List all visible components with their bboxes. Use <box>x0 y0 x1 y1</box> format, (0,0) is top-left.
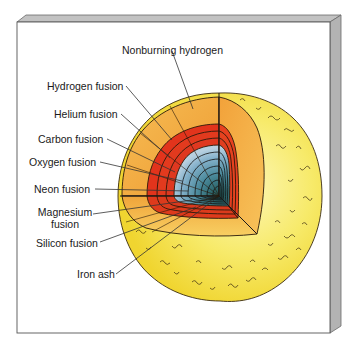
label-magnesium-line-1: Magnesium <box>36 206 94 218</box>
label-magnesium-fusion: Magnesium fusion <box>36 206 94 230</box>
label-silicon-fusion: Silicon fusion <box>36 237 98 249</box>
label-neon-fusion: Neon fusion <box>34 183 90 195</box>
label-oxygen-fusion: Oxygen fusion <box>29 156 96 168</box>
label-carbon-fusion: Carbon fusion <box>38 133 103 145</box>
diagram-stage: Nonburning hydrogen Hydrogen fusion Heli… <box>0 0 355 349</box>
label-magnesium-line-2: fusion <box>36 218 94 230</box>
label-nonburning-hydrogen: Nonburning hydrogen <box>122 44 223 56</box>
label-iron-ash: Iron ash <box>77 268 115 280</box>
frame-top-bevel <box>17 15 341 22</box>
frame-right-bevel <box>330 15 341 333</box>
label-helium-fusion: Helium fusion <box>54 108 118 120</box>
label-hydrogen-fusion: Hydrogen fusion <box>47 80 123 92</box>
